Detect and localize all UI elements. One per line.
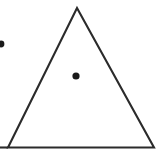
center-point: [72, 72, 79, 79]
figure-background: [0, 0, 162, 162]
triangle-diagram: [0, 0, 162, 162]
figure-canvas: Equilateral triangle with interior cente…: [0, 0, 162, 162]
